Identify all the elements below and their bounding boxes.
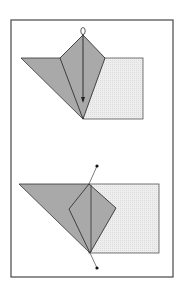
fold-endpoint-dot-bottom	[95, 266, 98, 269]
origami-diagram	[0, 0, 179, 296]
loop-icon	[81, 28, 85, 35]
fold-endpoint-dot-top	[95, 164, 98, 167]
